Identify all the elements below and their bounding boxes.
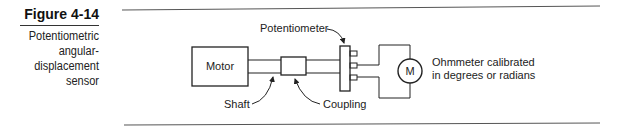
- motor-label: Motor: [206, 60, 234, 72]
- shaft: [248, 60, 340, 73]
- coupling-arrow: [295, 79, 320, 104]
- top-rule: [122, 6, 600, 10]
- potentiometer-arrow: [327, 29, 344, 43]
- potentiometer-label: Potentiometer: [260, 22, 329, 34]
- potentiometer-block: [340, 46, 357, 91]
- coupling-label: Coupling: [323, 98, 366, 110]
- ohmmeter-label-line1: Ohmmeter calibrated: [432, 56, 535, 68]
- meter-wiring: [357, 45, 410, 98]
- meter-symbol-label: M: [405, 65, 414, 77]
- sensor-diagram: Motor M Ohmmeter calibrated in degrees o…: [0, 0, 622, 131]
- shaft-arrow: [252, 77, 273, 104]
- ohmmeter-symbol: M: [398, 59, 422, 83]
- motor-block: Motor: [192, 47, 248, 86]
- ohmmeter-label-line2: in degrees or radians: [432, 69, 536, 81]
- shaft-label: Shaft: [224, 98, 250, 110]
- bottom-rule: [124, 123, 600, 125]
- coupling-block: [281, 57, 306, 75]
